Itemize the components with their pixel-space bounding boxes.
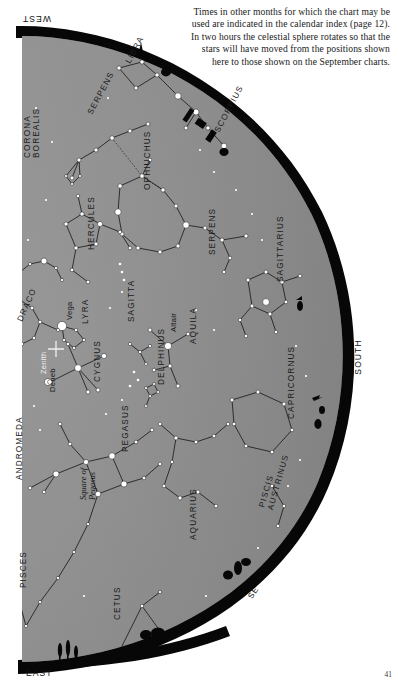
label-sagittarius: SAGITTARIUS: [276, 215, 285, 282]
star-chart-page: LIBRA SERPENS CORONABOREALIS OPHIUCHUS S…: [0, 0, 398, 684]
label-altair: Altair: [169, 313, 178, 332]
label-cygnus: CYGNUS: [93, 340, 102, 382]
label-deneb: Deneb: [48, 368, 57, 392]
compass-label-west: WEST: [22, 14, 51, 24]
label-hercules: HERCULES: [87, 196, 96, 250]
label-capricornus: CAPRICORNUS: [287, 346, 296, 419]
page-number: 41: [385, 670, 393, 679]
label-serpens-cauda: SERPENS: [208, 208, 217, 255]
label-delphinus: DELPHINUS: [157, 328, 166, 385]
label-ophiuchus: OPHIUCHUS: [143, 131, 152, 190]
label-sagitta: SAGITTA: [127, 280, 136, 322]
sky-chart: LIBRA SERPENS CORONABOREALIS OPHIUCHUS S…: [0, 0, 398, 684]
label-lyra: LYRA: [81, 299, 90, 324]
sky-area: [0, 0, 398, 684]
label-aquila: AQUILA: [189, 307, 198, 344]
label-vega: Vega: [65, 301, 74, 320]
intro-caption: Times in other months for which the char…: [190, 6, 390, 68]
label-pegasus: PEGASUS: [121, 404, 130, 452]
label-zenith: Zenith: [39, 352, 48, 374]
compass-label-south: SOUTH: [353, 339, 363, 374]
label-corona-borealis: CORONABOREALIS: [23, 108, 41, 158]
label-cetus: CETUS: [113, 587, 122, 621]
compass-label-east: EAST: [26, 668, 53, 678]
label-andromeda: ANDROMEDA: [15, 416, 24, 480]
label-aquarius: AQUARIUS: [189, 488, 198, 540]
label-pisces: PISCES: [19, 551, 28, 588]
